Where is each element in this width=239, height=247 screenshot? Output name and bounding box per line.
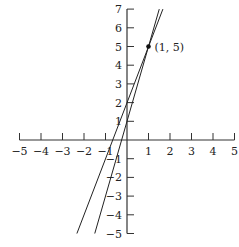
y-tick-label: 4 [115, 59, 122, 72]
point-label: (1, 5) [155, 41, 185, 54]
x-tick-label: 1 [145, 145, 152, 158]
x-tick-label: −3 [54, 145, 70, 158]
y-tick-label: −4 [106, 209, 122, 222]
x-tick-label: 4 [210, 145, 217, 158]
y-tick-label: 6 [115, 22, 122, 35]
x-tick-label: 5 [231, 145, 238, 158]
y-tick-label: 3 [115, 78, 122, 91]
x-tick-label: 2 [167, 145, 174, 158]
x-tick-label: −2 [76, 145, 92, 158]
x-tick-label: 3 [188, 145, 195, 158]
point-marker [146, 44, 151, 49]
y-tick-label: −2 [106, 171, 122, 184]
y-tick-label: 5 [115, 41, 122, 54]
y-tick-label: −3 [106, 190, 122, 203]
y-tick-label: −5 [106, 228, 122, 241]
x-tick-label: −4 [33, 145, 49, 158]
y-tick-label: 2 [115, 97, 122, 110]
y-tick-label: 7 [115, 3, 122, 16]
graph: −5−4−3−2−1123457654321−1−2−3−4−5(1, 5) [0, 0, 239, 247]
x-tick-label: −5 [11, 145, 27, 158]
y-tick-label: −1 [106, 153, 122, 166]
